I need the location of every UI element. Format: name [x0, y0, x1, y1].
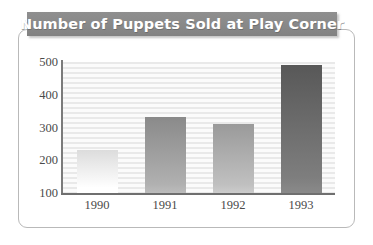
- x-axis-tick-label: 1992: [203, 199, 263, 212]
- y-axis-tick-label: 300: [22, 122, 58, 135]
- y-axis-tick-label: 200: [22, 154, 58, 167]
- y-axis-tick-labels: 100200300400500: [18, 62, 58, 193]
- page-title: Number of Puppets Sold at Play Corner: [20, 16, 344, 32]
- y-axis-tick-label: 500: [22, 56, 58, 69]
- chart-title-banner: Number of Puppets Sold at Play Corner: [27, 12, 337, 36]
- y-axis-tick-label: 100: [22, 187, 58, 200]
- x-axis-tick-label: 1991: [135, 199, 195, 212]
- bar-1991: [145, 117, 186, 193]
- x-axis-line: [61, 193, 335, 195]
- bars-layer: [63, 62, 335, 193]
- bar-1993: [281, 65, 322, 193]
- plot-area: [63, 62, 335, 193]
- bar-1992: [213, 124, 254, 193]
- bar-1990: [77, 150, 118, 193]
- bar-chart-figure: Number of Puppets Sold at Play Corner 10…: [0, 0, 373, 245]
- x-axis-tick-labels: 1990199119921993: [63, 199, 335, 217]
- y-axis-tick-label: 400: [22, 89, 58, 102]
- x-axis-tick-label: 1993: [271, 199, 331, 212]
- x-axis-tick-label: 1990: [67, 199, 127, 212]
